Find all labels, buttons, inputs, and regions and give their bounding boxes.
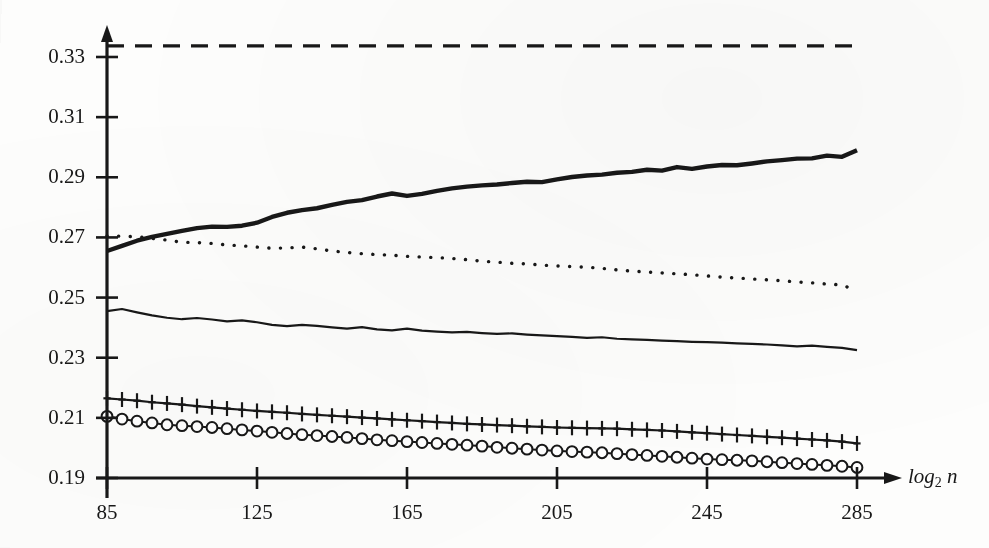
- marker-plus: [718, 427, 725, 442]
- series-layer: [102, 46, 863, 473]
- marker-circle: [612, 448, 623, 459]
- marker-plus: [478, 417, 485, 432]
- marker-plus: [658, 423, 665, 438]
- series-dotted-declining: [107, 236, 857, 291]
- marker-circle: [237, 424, 248, 435]
- marker-circle: [522, 444, 533, 455]
- marker-plus: [688, 425, 695, 440]
- marker-circle: [432, 438, 443, 449]
- marker-plus: [418, 414, 425, 429]
- marker-plus: [163, 396, 170, 411]
- marker-circle: [177, 420, 188, 431]
- marker-circle: [252, 426, 263, 437]
- marker-circle: [597, 447, 608, 458]
- marker-circle: [732, 455, 743, 466]
- marker-circle: [267, 427, 278, 438]
- x-tick-label: 245: [667, 502, 747, 523]
- marker-circle: [417, 437, 428, 448]
- marker-circle: [642, 450, 653, 461]
- x-tick-label: 85: [67, 502, 147, 523]
- marker-plus: [328, 408, 335, 423]
- marker-plus: [733, 427, 740, 442]
- marker-circle: [147, 418, 158, 429]
- marker-plus: [583, 421, 590, 436]
- marker-plus: [508, 418, 515, 433]
- marker-circle: [387, 435, 398, 446]
- marker-circle: [582, 447, 593, 458]
- y-tick-label: 0.33: [48, 46, 85, 67]
- marker-circle: [357, 433, 368, 444]
- marker-plus: [193, 399, 200, 414]
- marker-circle: [762, 456, 773, 467]
- marker-plus: [133, 393, 140, 408]
- marker-plus: [463, 416, 470, 431]
- y-tick-label: 0.29: [48, 166, 85, 187]
- marker-plus: [433, 415, 440, 430]
- marker-circle: [447, 439, 458, 450]
- marker-circle: [507, 443, 518, 454]
- marker-plus: [448, 415, 455, 430]
- marker-plus: [223, 401, 230, 416]
- marker-circle: [747, 455, 758, 466]
- marker-circle: [702, 454, 713, 465]
- marker-plus: [838, 434, 845, 449]
- marker-circle: [327, 431, 338, 442]
- marker-circle: [792, 458, 803, 469]
- marker-plus: [283, 405, 290, 420]
- marker-circle: [297, 429, 308, 440]
- x-axis-arrowhead: [884, 472, 902, 484]
- y-tick-label: 0.19: [48, 467, 85, 488]
- marker-circle: [222, 423, 233, 434]
- marker-circle: [207, 422, 218, 433]
- marker-plus: [343, 409, 350, 424]
- marker-circle: [282, 428, 293, 439]
- marker-circle: [567, 446, 578, 457]
- marker-plus: [268, 404, 275, 419]
- marker-plus: [538, 419, 545, 434]
- marker-plus: [238, 402, 245, 417]
- marker-plus: [253, 403, 260, 418]
- marker-plus: [388, 412, 395, 427]
- marker-circle: [687, 453, 698, 464]
- y-axis-arrowhead: [101, 25, 113, 42]
- marker-plus: [403, 413, 410, 428]
- marker-circle: [342, 432, 353, 443]
- marker-circle: [672, 452, 683, 463]
- marker-circle: [807, 459, 818, 470]
- marker-plus: [673, 424, 680, 439]
- x-tick-label: 205: [517, 502, 597, 523]
- marker-plus: [358, 410, 365, 425]
- marker-circle: [162, 419, 173, 430]
- marker-circle: [132, 416, 143, 427]
- y-tick-label: 0.25: [48, 287, 85, 308]
- marker-plus: [793, 431, 800, 446]
- y-tick-label: 0.31: [48, 106, 85, 127]
- marker-circle: [552, 446, 563, 457]
- marker-plus: [643, 422, 650, 437]
- marker-circle: [777, 457, 788, 468]
- chart-figure: 0.190.210.230.250.270.290.310.33 8512516…: [0, 0, 989, 548]
- marker-plus: [178, 397, 185, 412]
- marker-circle: [372, 434, 383, 445]
- marker-circle: [537, 445, 548, 456]
- marker-circle: [627, 449, 638, 460]
- marker-plus: [373, 411, 380, 426]
- marker-circle: [657, 451, 668, 462]
- x-axis-label-subscript: 2: [935, 475, 942, 490]
- marker-plus: [628, 422, 635, 437]
- marker-plus: [118, 392, 125, 407]
- marker-plus: [523, 419, 530, 434]
- marker-plus: [748, 428, 755, 443]
- marker-circle: [717, 454, 728, 465]
- y-tick-label: 0.21: [48, 407, 85, 428]
- marker-plus: [148, 395, 155, 410]
- marker-plus: [298, 406, 305, 421]
- marker-circle: [402, 436, 413, 447]
- marker-plus: [853, 436, 860, 451]
- x-axis-label: log2 n: [908, 466, 958, 490]
- series-thick-solid-rising: [107, 150, 857, 251]
- marker-plus: [493, 418, 500, 433]
- marker-circle: [837, 461, 848, 472]
- marker-circle: [492, 442, 503, 453]
- y-tick-label: 0.23: [48, 347, 85, 368]
